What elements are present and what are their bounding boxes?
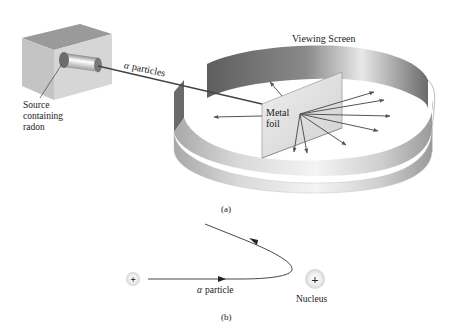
alpha-symbol: α (123, 59, 131, 71)
panel-a-caption: (a) (221, 204, 231, 214)
alpha-symbol-b: α (197, 285, 203, 295)
alpha-trajectory (148, 224, 292, 279)
nucleus-charge-sign: + (311, 272, 318, 287)
nucleus: + (305, 269, 325, 289)
alpha-charge-sign: + (130, 274, 136, 285)
panel-a: Viewing Screen α particles Source contai… (22, 24, 435, 214)
rutherford-diagram: Viewing Screen α particles Source contai… (0, 0, 458, 329)
figure-canvas: Viewing Screen α particles Source contai… (0, 0, 458, 329)
panel-b-caption: (b) (221, 312, 232, 322)
alpha-particle-circle: + (126, 272, 140, 286)
nucleus-label: Nucleus (296, 294, 327, 304)
alpha-particles-label: α particles (123, 59, 166, 78)
source-box (22, 24, 112, 100)
source-label-line3: radon (23, 122, 45, 132)
trajectory-arrow-in (218, 276, 226, 282)
particles-text: particles (131, 61, 167, 79)
source-label-line1: Source (23, 100, 49, 110)
foil-label-line2: foil (266, 118, 280, 129)
viewing-screen-label: Viewing Screen (292, 33, 356, 44)
source-label-line2: containing (23, 111, 63, 121)
foil-label-line1: Metal (266, 107, 290, 118)
alpha-particle-label: particle (205, 285, 233, 295)
panel-b: + + α particle Nucleus (b) (126, 224, 327, 322)
